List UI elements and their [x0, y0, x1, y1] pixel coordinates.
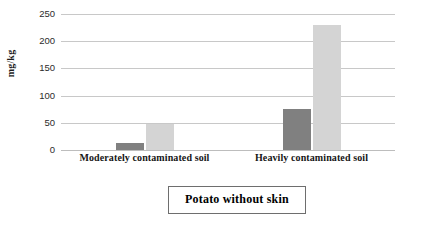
plot-area: 050100150200250	[61, 14, 395, 150]
y-tick-label-250: 250	[11, 9, 55, 19]
bar	[146, 124, 174, 150]
bar-group-container	[61, 14, 395, 150]
y-tick-label-100: 100	[11, 91, 55, 101]
y-tick-label-50: 50	[11, 118, 55, 128]
bar	[313, 25, 341, 150]
y-tick-label-200: 200	[11, 36, 55, 46]
bar	[116, 143, 144, 150]
x-axis-category-label: Heavily contaminated soil	[202, 152, 421, 163]
bar-chart-figure: mg/kg 050100150200250 Moderately contami…	[0, 0, 421, 226]
y-tick-label-150: 150	[11, 64, 55, 74]
bar	[283, 109, 311, 150]
gridline-0	[61, 150, 395, 151]
caption-box: Potato without skin	[168, 186, 306, 214]
x-axis-category-labels: Moderately contaminated soilHeavily cont…	[61, 152, 395, 168]
